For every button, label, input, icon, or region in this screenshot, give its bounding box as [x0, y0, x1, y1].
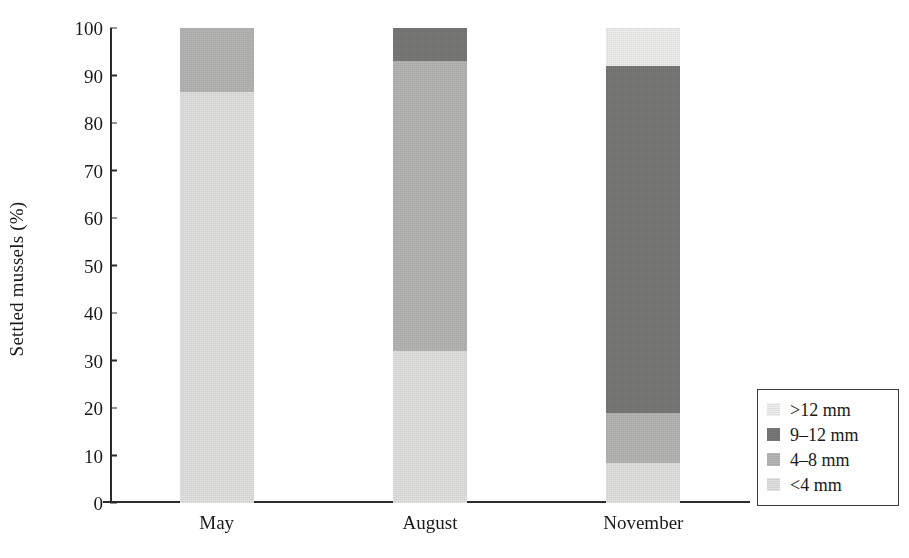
y-axis-tick-label: 50: [84, 256, 110, 275]
legend-item-label: >12 mm: [790, 401, 851, 419]
y-axis-tick-label: 20: [84, 399, 110, 418]
x-axis-label-november: November: [563, 512, 723, 534]
y-axis-tick-label: 10: [84, 446, 110, 465]
y-axis-tick: 10: [84, 446, 110, 465]
y-axis-tick: 80: [84, 114, 110, 133]
y-axis-tick-label: 90: [84, 66, 110, 85]
x-axis-label-may: May: [137, 512, 297, 534]
y-axis-tick-label: 30: [84, 351, 110, 370]
y-axis-tick: 0: [94, 494, 111, 513]
legend-swatch-icon: [767, 478, 780, 491]
y-axis-tick-mark: [110, 265, 117, 267]
legend-item-label: 4–8 mm: [790, 451, 850, 469]
y-axis-tick-mark: [110, 360, 117, 362]
y-axis-tick: 30: [84, 351, 110, 370]
y-axis-tick-mark: [110, 27, 117, 29]
y-axis-tick: 100: [75, 19, 111, 38]
plot-area: 0102030405060708090100 MayAugustNovember: [110, 28, 750, 503]
legend-swatch-icon: [767, 428, 780, 441]
legend-item: 9–12 mm: [767, 422, 889, 447]
bar-november: November: [606, 28, 680, 503]
y-axis-tick-label: 0: [94, 494, 111, 513]
bar-may: May: [180, 28, 254, 503]
y-axis-title: Settled mussels (%): [0, 0, 34, 558]
y-axis-tick-mark: [110, 122, 117, 124]
y-axis-tick-mark: [110, 407, 117, 409]
legend-swatch-icon: [767, 453, 780, 466]
y-axis-tick: 40: [84, 304, 110, 323]
legend-item-label: 9–12 mm: [790, 426, 859, 444]
bar-segment: [180, 28, 254, 92]
x-axis-label-august: August: [350, 512, 510, 534]
y-axis-tick: 50: [84, 256, 110, 275]
legend-item: 4–8 mm: [767, 447, 889, 472]
bar-segment: [606, 463, 680, 503]
bar-segment: [393, 28, 467, 61]
bar-segment: [606, 66, 680, 413]
y-axis-tick-label: 40: [84, 304, 110, 323]
y-axis-tick-mark: [110, 312, 117, 314]
legend-item-label: <4 mm: [790, 476, 842, 494]
legend-swatch-icon: [767, 403, 780, 416]
y-axis-tick-label: 70: [84, 161, 110, 180]
y-axis-tick-mark: [110, 75, 117, 77]
y-axis-tick-mark: [110, 455, 117, 457]
bar-segment: [606, 28, 680, 66]
chart-figure: Settled mussels (%) 01020304050607080901…: [0, 0, 909, 558]
y-axis-tick-mark: [110, 170, 117, 172]
bar-segment: [180, 92, 254, 503]
legend-item: <4 mm: [767, 472, 889, 497]
bar-segment: [393, 351, 467, 503]
y-axis-tick: 60: [84, 209, 110, 228]
y-axis-tick-label: 100: [75, 19, 111, 38]
bar-august: August: [393, 28, 467, 503]
bar-segment: [393, 61, 467, 351]
y-axis-tick: 70: [84, 161, 110, 180]
y-axis-tick-mark: [110, 217, 117, 219]
y-axis-tick-mark: [110, 502, 117, 504]
bar-segment: [606, 413, 680, 463]
legend-item: >12 mm: [767, 397, 889, 422]
legend: >12 mm9–12 mm4–8 mm<4 mm: [757, 389, 899, 506]
y-axis-tick: 20: [84, 399, 110, 418]
y-axis-tick-label: 80: [84, 114, 110, 133]
y-axis-tick: 90: [84, 66, 110, 85]
y-axis-tick-label: 60: [84, 209, 110, 228]
